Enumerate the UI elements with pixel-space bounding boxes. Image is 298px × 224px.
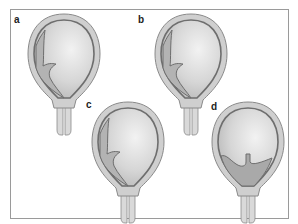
panel-b-uterus: [155, 14, 227, 135]
panel-label-d: d: [211, 102, 217, 112]
panel-d-uterus: [212, 102, 284, 223]
panel-a-uterus: [28, 14, 100, 135]
panel-label-c: c: [86, 100, 92, 110]
panel-label-b: b: [138, 15, 144, 25]
uterus-diagram: [0, 0, 298, 224]
panel-label-a: a: [14, 15, 20, 25]
panel-c-uterus: [92, 102, 164, 223]
